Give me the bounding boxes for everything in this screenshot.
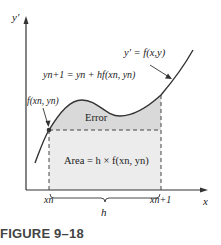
- area-label: Area = h × f(xn, yn): [64, 156, 149, 167]
- ode-label: y′ = f(x,y): [124, 48, 165, 59]
- curve-pointer-arrow-icon: [165, 74, 172, 80]
- point-label: f(xn, yn): [27, 97, 59, 107]
- xn1-label: xn+1: [150, 195, 171, 205]
- start-point: [47, 128, 52, 133]
- h-label: h: [101, 207, 107, 218]
- error-label: Error: [85, 113, 107, 124]
- y-axis-label: y′: [12, 12, 19, 23]
- curve-pointer: [150, 65, 169, 77]
- x-axis-label: x: [203, 196, 208, 207]
- h-brace: [50, 194, 160, 202]
- point-pointer-arrow-icon: [46, 121, 51, 128]
- y-axis-arrow-icon: [24, 16, 29, 24]
- figure-caption: FIGURE 9–18: [0, 226, 84, 241]
- x-axis-arrow-icon: [200, 188, 208, 193]
- euler-method-figure: y′ x y′ = f(x,y) yn+1 = yn + hf(xn, yn) …: [0, 0, 221, 245]
- xn-label: xn: [44, 195, 53, 205]
- euler-formula-label: yn+1 = yn + hf(xn, yn): [43, 70, 135, 80]
- diagram-canvas: [0, 0, 221, 245]
